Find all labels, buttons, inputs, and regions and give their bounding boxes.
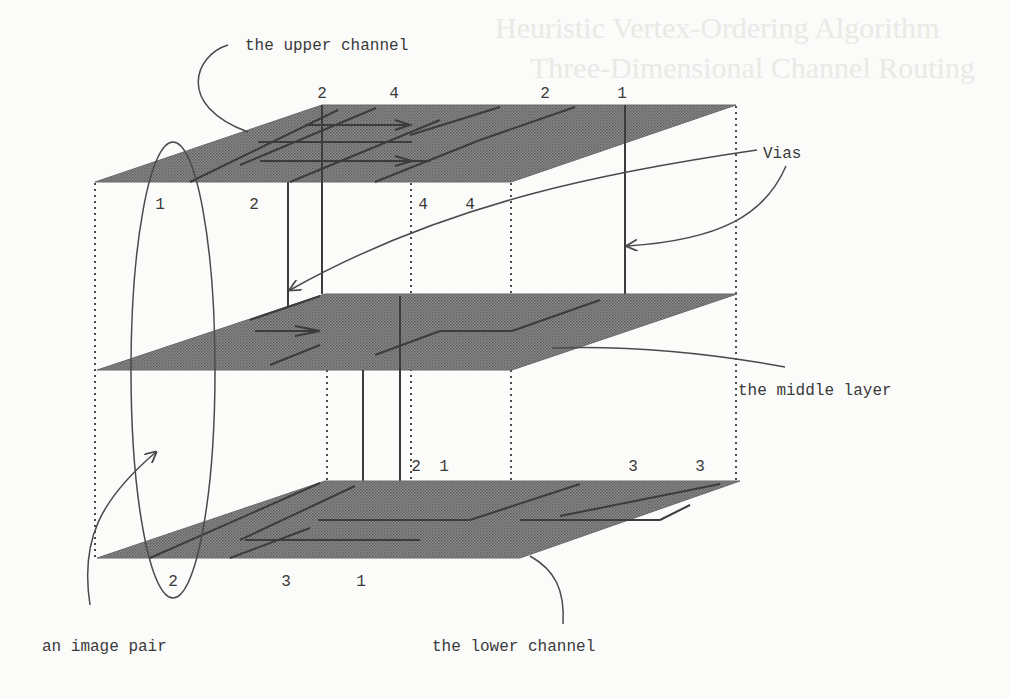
label-image-pair: an image pair [42, 638, 167, 656]
bleed-through-text: Heuristic Vertex-Ordering Algorithm Thre… [495, 11, 975, 84]
vias-arrow-right [627, 166, 786, 246]
middle-plane-surface [97, 294, 737, 370]
middle-layer-plane [97, 294, 737, 481]
bleed-line-2: Three-Dimensional Channel Routing [530, 51, 975, 84]
terminal-number: 4 [389, 85, 399, 103]
terminal-number: 4 [418, 196, 428, 214]
terminal-number: 1 [356, 573, 366, 591]
terminal-number: 2 [411, 458, 421, 476]
lower-channel-plane [97, 481, 740, 558]
label-vias: Vias [763, 145, 801, 163]
terminal-number: 1 [155, 196, 165, 214]
terminal-number: 2 [168, 573, 178, 591]
image-pair-arrow [88, 452, 156, 605]
terminal-number: 2 [249, 196, 259, 214]
terminal-number: 1 [617, 85, 627, 103]
terminal-number: 3 [281, 573, 291, 591]
terminal-number: 1 [439, 458, 449, 476]
terminal-number: 3 [628, 458, 638, 476]
middle-layer-leader [552, 347, 785, 367]
terminal-number: 2 [540, 85, 550, 103]
label-upper-channel: the upper channel [245, 37, 408, 55]
lower-channel-leader [530, 556, 563, 624]
label-middle-layer: the middle layer [738, 382, 892, 400]
label-lower-channel: the lower channel [432, 638, 595, 656]
upper-channel-plane [95, 105, 736, 182]
terminal-number: 3 [695, 458, 705, 476]
terminal-number: 2 [317, 85, 327, 103]
upper-plane-surface [95, 105, 736, 182]
upper-channel-leader [198, 45, 248, 132]
bleed-line-1: Heuristic Vertex-Ordering Algorithm [495, 11, 939, 44]
channel-routing-diagram: Heuristic Vertex-Ordering Algorithm Thre… [0, 0, 1011, 698]
